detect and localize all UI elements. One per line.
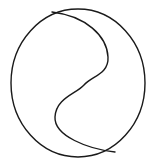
yin-yang-drawing: Yin Yang symbol outline (0, 0, 158, 167)
figure-canvas: Yin Yang symbol outline (0, 0, 158, 167)
